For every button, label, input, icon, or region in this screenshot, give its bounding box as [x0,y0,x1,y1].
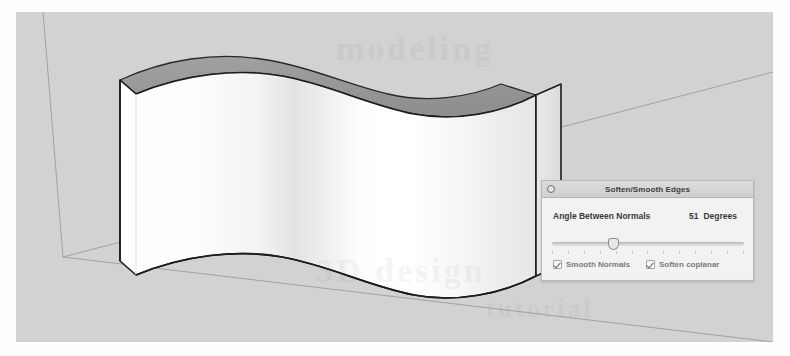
dialog-body: Angle Between Normals 51Degrees Smooth N… [542,198,753,279]
slider-tick [632,251,633,254]
slider-tick [679,251,680,254]
dialog-title: Soften/Smooth Edges [605,185,690,194]
angle-label: Angle Between Normals [553,211,650,221]
angle-value-group: 51Degrees [689,211,737,221]
slider-tick [616,251,617,254]
checkbox-label-smooth-normals: Smooth Normals [566,260,630,269]
soften-smooth-edges-dialog[interactable]: Soften/Smooth Edges Angle Between Normal… [541,180,754,281]
angle-row: Angle Between Normals 51Degrees [553,211,743,221]
modeling-viewport[interactable]: modeling 3D design tutorial [16,12,773,342]
slider-tick [711,251,712,254]
model-canvas[interactable] [16,12,773,342]
slider-tick [663,251,664,254]
slider-ticks [552,251,744,256]
screenshot-root: modeling 3D design tutorial Soften/Smoot… [0,0,790,356]
slider-tick [568,251,569,254]
slider-tick [552,251,553,254]
checkmark-icon[interactable] [646,260,655,269]
slider-tick [647,251,648,254]
slider-tick [584,251,585,254]
slider-thumb[interactable] [608,238,619,250]
close-circle-icon[interactable] [547,185,555,193]
angle-value: 51 [689,211,698,221]
slider-tick [600,251,601,254]
axis-vertical [43,12,63,257]
slider-tick [727,251,728,254]
checkbox-row: Smooth Normals Soften coplanar [553,260,745,269]
checkbox-smooth-normals[interactable]: Smooth Normals [553,260,630,269]
slider-tick [695,251,696,254]
checkmark-icon[interactable] [553,260,562,269]
slider-tick [743,251,744,254]
checkbox-label-soften-coplanar: Soften coplanar [659,260,719,269]
checkbox-soften-coplanar[interactable]: Soften coplanar [646,260,719,269]
angle-slider[interactable] [552,237,744,253]
angle-unit: Degrees [703,211,737,221]
dialog-title-bar[interactable]: Soften/Smooth Edges [542,181,753,198]
slider-track[interactable] [552,242,744,246]
